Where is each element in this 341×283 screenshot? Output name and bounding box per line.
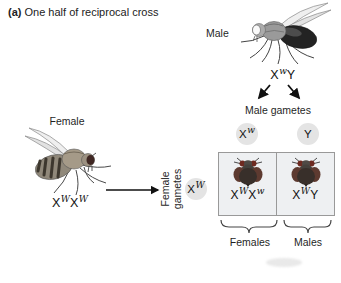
figure-title-prefix: (a): [8, 6, 21, 18]
males-group-label: Males: [283, 236, 333, 248]
red-eye: [87, 155, 95, 165]
cropped-artifact: [266, 258, 302, 267]
figure-title: (a) One half of reciprocal cross: [8, 6, 158, 18]
group-braces-icon: [218, 219, 335, 236]
gamete-circle-y: Y: [297, 123, 319, 145]
cell-genotype: XWXw: [230, 188, 264, 202]
female-fly-icon: [24, 125, 112, 199]
cross-arrow-icon: [106, 185, 166, 195]
white-eye: [253, 25, 261, 35]
reciprocal-cross-figure: (a) One half of reciprocal cross Male Xw…: [0, 0, 341, 283]
gamete-circle-xw: Xw: [236, 123, 258, 145]
offspring-fly-icon: [230, 157, 266, 187]
male-gamete-arrows-icon: [246, 84, 312, 104]
male-genotype: XwY: [257, 68, 309, 82]
punnett-cell-females: XWXw: [219, 153, 277, 215]
punnett-cell-males: XWY: [277, 153, 334, 215]
female-gametes-label: Female gametes: [160, 163, 184, 215]
male-fly-icon: [238, 1, 334, 67]
females-group-label: Females: [219, 236, 281, 248]
gamete-circle-xW: XW: [185, 178, 207, 200]
cell-genotype: XWY: [292, 188, 318, 202]
punnett-square: XWXw XWY: [218, 152, 335, 216]
figure-title-text: One half of reciprocal cross: [25, 6, 159, 18]
offspring-fly-icon: [288, 157, 324, 187]
female-genotype: XWXW: [38, 196, 102, 210]
male-gametes-label: Male gametes: [230, 104, 326, 116]
